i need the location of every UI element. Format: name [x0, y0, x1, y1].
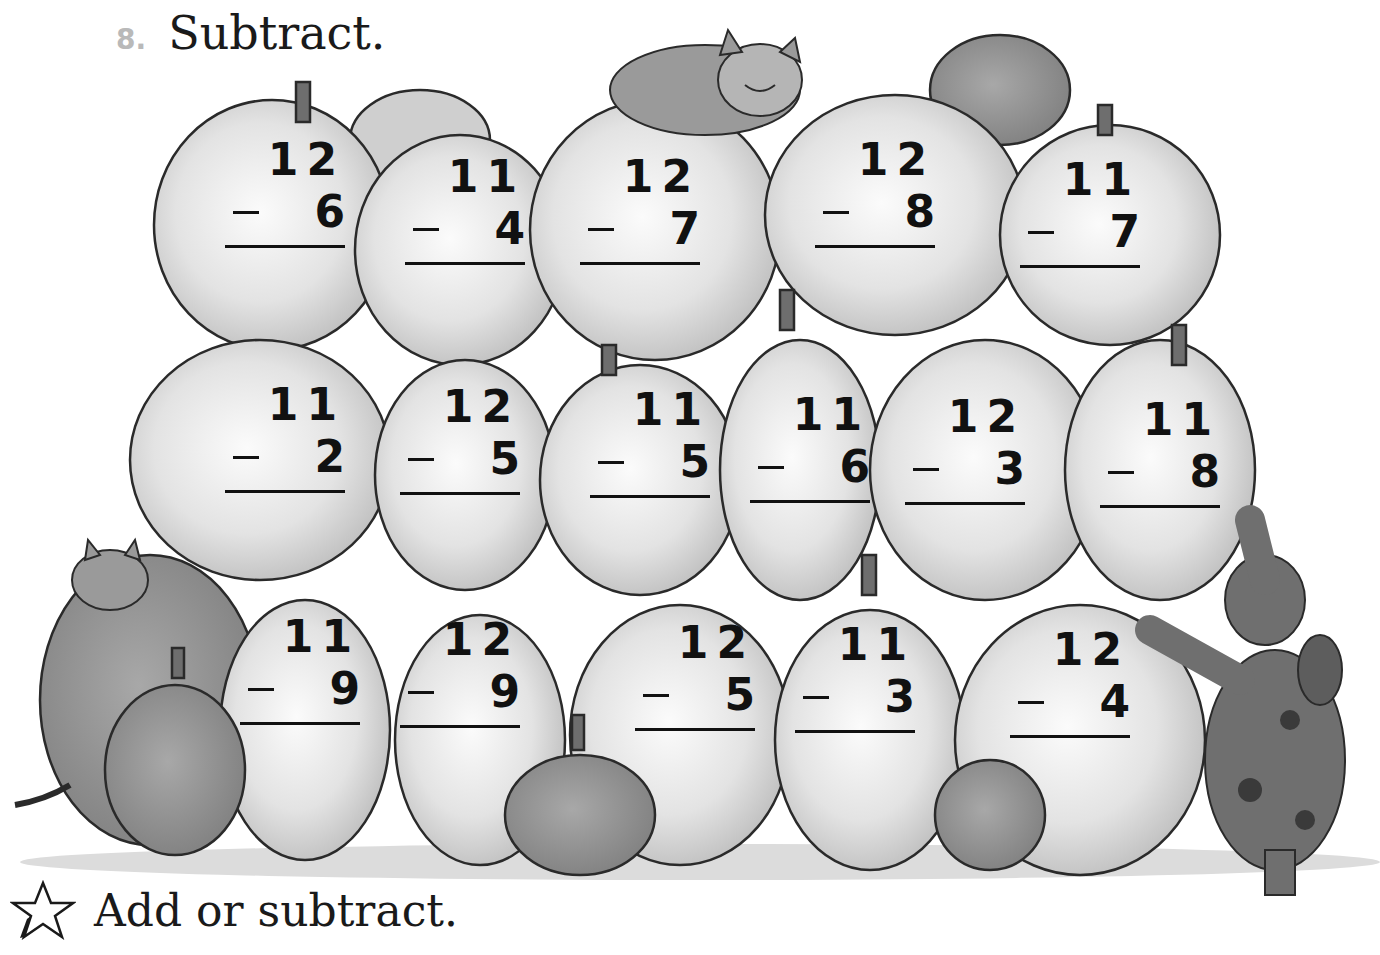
answer-line[interactable] [635, 728, 755, 731]
problem-3: 12 7 [580, 152, 700, 265]
problem-9: 11 6 [750, 390, 870, 503]
star-outline-icon [10, 880, 76, 940]
answer-line[interactable] [400, 492, 520, 495]
answer-line[interactable] [405, 262, 525, 265]
problem-5: 11 7 [1020, 155, 1140, 268]
answer-line[interactable] [1020, 265, 1140, 268]
problem-16: 12 4 [1010, 625, 1130, 738]
answer-line[interactable] [225, 245, 345, 248]
cat-illustration [610, 30, 802, 135]
answer-line[interactable] [795, 730, 915, 733]
answer-line[interactable] [815, 245, 935, 248]
problem-15: 11 3 [795, 620, 915, 733]
problem-1: 12 6 [225, 135, 345, 248]
problem-7: 12 5 [400, 382, 520, 495]
problem-10: 12 3 [905, 392, 1025, 505]
small-pumpkin-left [105, 685, 245, 855]
footer-instruction: Add or subtract. [94, 885, 458, 936]
small-pumpkin-right [935, 760, 1045, 870]
problem-6: 11 2 [225, 380, 345, 493]
problem-2: 11 4 [405, 152, 525, 265]
answer-line[interactable] [400, 725, 520, 728]
answer-line[interactable] [590, 495, 710, 498]
answer-line[interactable] [580, 262, 700, 265]
answer-line[interactable] [905, 502, 1025, 505]
answer-line[interactable] [1010, 735, 1130, 738]
problem-4: 12 8 [815, 135, 935, 248]
answer-line[interactable] [240, 722, 360, 725]
problem-11: 11 8 [1100, 395, 1220, 508]
answer-line[interactable] [225, 490, 345, 493]
answer-line[interactable] [1100, 505, 1220, 508]
small-pumpkin-center [505, 755, 655, 875]
problem-13: 12 9 [400, 615, 520, 728]
problem-14: 12 5 [635, 618, 755, 731]
problem-8: 11 5 [590, 385, 710, 498]
problem-12: 11 9 [240, 612, 360, 725]
next-exercise-header: Add or subtract. [10, 880, 458, 940]
answer-line[interactable] [750, 500, 870, 503]
